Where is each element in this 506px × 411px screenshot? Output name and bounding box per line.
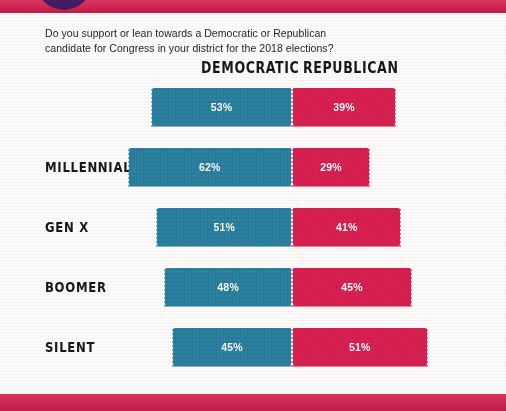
bar-value-democratic: 45% <box>221 341 243 353</box>
question-text: Do you support or lean towards a Democra… <box>45 26 375 56</box>
bar-value-democratic: 51% <box>213 221 235 233</box>
bar-republican: 41% <box>293 208 400 246</box>
bar-democratic: 62% <box>129 148 291 186</box>
row-label-gen-x: GEN X <box>45 218 89 235</box>
bar-republican: 45% <box>293 268 411 306</box>
bar-value-democratic: 48% <box>217 281 239 293</box>
column-header-republican: REPUBLICAN <box>303 58 399 76</box>
bar-democratic: 51% <box>157 208 291 246</box>
bar-value-republican: 45% <box>341 281 363 293</box>
chart-row: GEN X51%41% <box>0 208 506 246</box>
column-header-democratic: DEMOCRATIC <box>201 58 299 76</box>
diverging-bar-chart: 53%39%MILLENNIAL62%29%GEN X51%41%BOOMER4… <box>0 84 506 384</box>
bar-value-democratic: 62% <box>199 161 221 173</box>
bar-value-republican: 51% <box>349 341 371 353</box>
bar-republican: 39% <box>293 88 395 126</box>
bar-republican: 51% <box>293 328 427 366</box>
bar-value-democratic: 53% <box>211 101 233 113</box>
infographic-page: Do you support or lean towards a Democra… <box>0 0 506 411</box>
bar-value-republican: 41% <box>336 221 358 233</box>
bar-republican: 29% <box>293 148 369 186</box>
bottom-banner <box>0 394 506 411</box>
chart-row: SILENT45%51% <box>0 328 506 366</box>
bar-value-republican: 39% <box>333 101 355 113</box>
chart-row: MILLENNIAL62%29% <box>0 148 506 186</box>
chart-row: 53%39% <box>0 88 506 126</box>
row-label-silent: SILENT <box>45 338 95 355</box>
bar-democratic: 48% <box>165 268 291 306</box>
row-label-boomer: BOOMER <box>45 278 107 295</box>
chart-row: BOOMER48%45% <box>0 268 506 306</box>
bar-democratic: 45% <box>173 328 291 366</box>
row-label-millennial: MILLENNIAL <box>45 158 131 175</box>
column-headers: DEMOCRATIC REPUBLICAN <box>0 58 506 78</box>
bar-value-republican: 29% <box>320 161 342 173</box>
bar-democratic: 53% <box>152 88 291 126</box>
